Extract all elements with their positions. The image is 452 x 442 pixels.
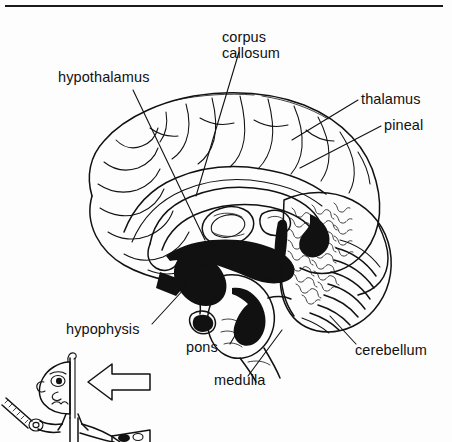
brain-diagram-figure: corpus callosum hypothalamus thalamus pi… xyxy=(0,0,452,442)
brain-diagram-canvas: corpus callosum hypothalamus thalamus pi… xyxy=(0,0,452,442)
leader-cerebellum xyxy=(330,316,356,344)
label-cerebellum: cerebellum xyxy=(355,342,427,358)
label-pons: pons xyxy=(186,339,218,355)
eye-pupil xyxy=(56,378,62,384)
label-thalamus: thalamus xyxy=(361,91,421,107)
cartoon-figure xyxy=(2,353,150,442)
label-medulla: medulla xyxy=(214,372,266,388)
label-hypothalamus: hypothalamus xyxy=(58,69,149,85)
label-hypophysis: hypophysis xyxy=(66,321,140,337)
label-corpus-callosum-line1: corpus xyxy=(222,29,266,45)
label-pineal: pineal xyxy=(384,117,423,133)
leader-corpus-callosum xyxy=(196,52,239,196)
pointer-arrow xyxy=(88,364,150,400)
label-corpus-callosum-line2: callosum xyxy=(222,45,280,61)
